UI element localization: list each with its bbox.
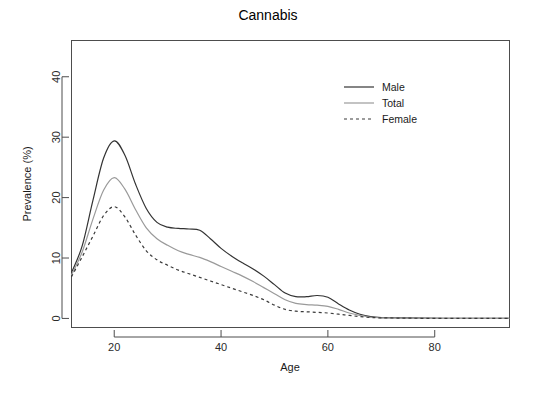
- data-series-group: [72, 141, 510, 319]
- x-axis-label: Age: [280, 361, 300, 373]
- series-line-male: [72, 141, 510, 319]
- y-tick-label-20: 20: [50, 191, 62, 203]
- cannabis-prevalence-chart: Cannabis 010203040 20406080 Age Prevalen…: [0, 0, 536, 393]
- x-tick-label-40: 40: [215, 341, 227, 353]
- legend-label-total: Total: [382, 97, 404, 109]
- x-tick-label-80: 80: [429, 341, 441, 353]
- chart-legend: MaleTotalFemale: [344, 81, 417, 125]
- y-axis-label: Prevalence (%): [21, 146, 33, 221]
- legend-label-female: Female: [382, 113, 417, 125]
- chart-canvas: Cannabis 010203040 20406080 Age Prevalen…: [0, 0, 536, 393]
- y-tick-label-30: 30: [50, 131, 62, 143]
- y-tick-label-0: 0: [50, 315, 62, 321]
- series-line-total: [72, 178, 510, 319]
- y-axis: 010203040: [50, 71, 69, 322]
- y-tick-label-40: 40: [50, 71, 62, 83]
- x-axis: 20406080: [108, 330, 441, 353]
- chart-title: Cannabis: [238, 7, 297, 23]
- x-tick-label-20: 20: [108, 341, 120, 353]
- plot-frame: [72, 41, 510, 328]
- legend-label-male: Male: [382, 81, 405, 93]
- y-tick-label-10: 10: [50, 252, 62, 264]
- x-tick-label-60: 60: [322, 341, 334, 353]
